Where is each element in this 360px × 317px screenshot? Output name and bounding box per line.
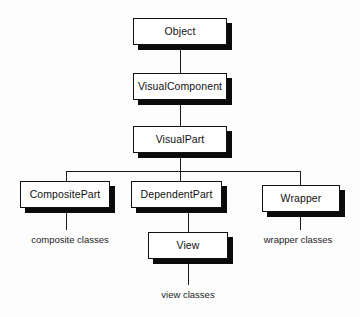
class-box-wrapper-label: Wrapper <box>281 193 322 204</box>
view-classes-caption: view classes <box>142 289 234 300</box>
class-box-visualcomponent[interactable]: VisualComponent <box>133 73 227 100</box>
edge-view-to-caption <box>188 259 189 285</box>
class-box-view-label: View <box>177 240 200 251</box>
edge-bus-to-wrapper <box>300 171 301 186</box>
class-box-object[interactable]: Object <box>133 18 227 45</box>
edge-visualpart-to-bus <box>180 153 181 172</box>
edge-wrapper-to-caption <box>300 212 301 230</box>
edge-compositepart-to-caption <box>66 208 67 230</box>
class-box-compositepart-label: CompositePart <box>30 189 101 200</box>
wrapper-classes-caption: wrapper classes <box>252 234 344 245</box>
edge-object-to-visualcomponent <box>180 45 181 73</box>
edge-visualcomponent-to-visualpart <box>180 100 181 126</box>
class-box-dependentpart[interactable]: DependentPart <box>131 181 222 208</box>
composite-classes-caption: composite classes <box>22 234 118 245</box>
class-box-dependentpart-label: DependentPart <box>141 189 213 200</box>
class-box-visualpart[interactable]: VisualPart <box>133 126 227 153</box>
class-box-view[interactable]: View <box>148 232 228 259</box>
class-box-object-label: Object <box>165 26 196 37</box>
class-box-compositepart[interactable]: CompositePart <box>20 181 110 208</box>
class-box-wrapper[interactable]: Wrapper <box>262 185 340 212</box>
class-hierarchy-diagram: Object VisualComponent VisualPart Compos… <box>0 0 360 317</box>
class-box-visualcomponent-label: VisualComponent <box>138 81 222 92</box>
class-box-visualpart-label: VisualPart <box>156 134 205 145</box>
edge-dependentpart-to-view <box>188 208 189 232</box>
edge-sibling-bus <box>66 171 301 172</box>
